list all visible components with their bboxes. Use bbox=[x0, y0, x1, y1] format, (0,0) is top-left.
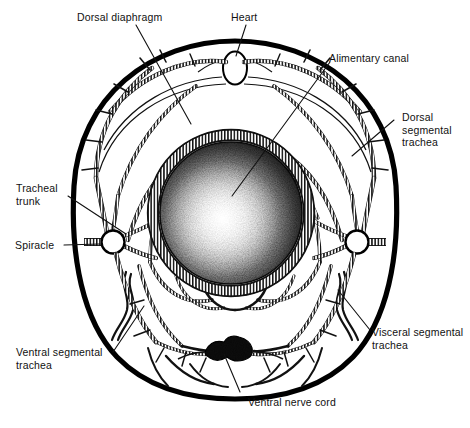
label-visceral-segmental-trachea: Visceral segmental trachea bbox=[372, 326, 463, 351]
label-ventral-segmental-trachea: Ventral segmental trachea bbox=[16, 346, 103, 371]
label-spiracle: Spiracle bbox=[15, 239, 54, 252]
label-tracheal-trunk: Tracheal trunk bbox=[16, 182, 58, 207]
label-heart: Heart bbox=[231, 11, 257, 24]
alimentary-canal bbox=[148, 130, 315, 297]
anatomical-figure: Dorsal diaphragm Heart Alimentary canal … bbox=[0, 0, 470, 428]
spiracle-left bbox=[102, 231, 125, 254]
label-alimentary-canal: Alimentary canal bbox=[329, 52, 409, 65]
label-ventral-nerve-cord: Ventral nerve cord bbox=[248, 396, 336, 409]
label-dorsal-segmental-trachea: Dorsal segmental trachea bbox=[402, 111, 452, 149]
label-dorsal-diaphragm: Dorsal diaphragm bbox=[77, 11, 162, 24]
spiracle-right bbox=[346, 231, 369, 254]
heart bbox=[198, 52, 272, 85]
